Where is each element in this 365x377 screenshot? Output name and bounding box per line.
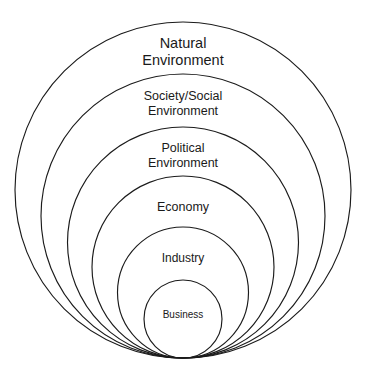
ring-circle-industry[interactable] <box>118 227 249 358</box>
ring-label-line: Political <box>161 141 204 155</box>
nested-circles-diagram: NaturalEnvironmentSociety/SocialEnvironm… <box>0 0 365 377</box>
ring-label-economy: Economy <box>157 200 210 214</box>
diagram-canvas: NaturalEnvironmentSociety/SocialEnvironm… <box>0 0 365 377</box>
ring-label-society-social-environment: Society/SocialEnvironment <box>144 89 223 118</box>
circles-group <box>15 22 351 358</box>
ring-label-industry: Industry <box>162 251 205 265</box>
ring-label-business: Business <box>163 309 204 320</box>
ring-label-line: Economy <box>157 200 210 214</box>
ring-label-line: Environment <box>148 156 219 170</box>
ring-label-natural-environment: NaturalEnvironment <box>142 35 223 68</box>
ring-label-line: Natural <box>160 35 207 51</box>
ring-label-political-environment: PoliticalEnvironment <box>148 141 219 170</box>
ring-label-line: Industry <box>162 251 205 265</box>
ring-label-line: Business <box>163 309 204 320</box>
ring-circle-natural-environment[interactable] <box>15 22 351 358</box>
ring-label-line: Environment <box>142 51 223 67</box>
labels-group: NaturalEnvironmentSociety/SocialEnvironm… <box>142 35 223 320</box>
ring-label-line: Environment <box>148 104 219 118</box>
ring-label-line: Society/Social <box>144 89 223 103</box>
